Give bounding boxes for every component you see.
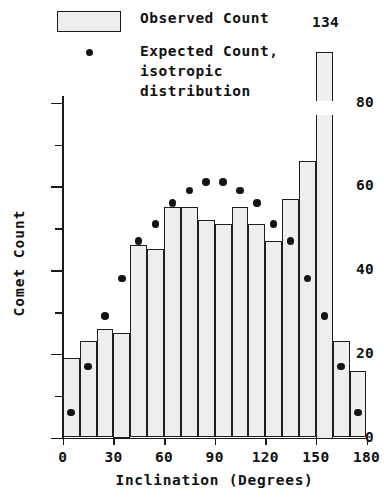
- histogram-bar: [80, 341, 97, 437]
- histogram-bar: [113, 333, 130, 438]
- expected-count-point: [169, 199, 177, 207]
- y-tick-major: [51, 103, 63, 105]
- expected-count-point: [253, 199, 261, 207]
- x-tick: [316, 438, 318, 445]
- histogram-bar: [63, 358, 80, 438]
- x-tick: [63, 438, 65, 445]
- y-tick-major: [51, 270, 63, 272]
- expected-count-point: [101, 312, 109, 320]
- histogram-bar: [130, 245, 147, 438]
- y-tick-minor: [55, 312, 63, 314]
- x-tick: [265, 438, 267, 445]
- histogram-bar: [350, 371, 367, 438]
- y-tick-label: 20: [330, 345, 374, 361]
- peak-value-label: 134: [312, 14, 339, 30]
- expected-count-point: [337, 363, 345, 371]
- histogram-bar: [147, 249, 164, 437]
- x-tick-label: 90: [195, 449, 235, 465]
- y-tick-minor: [55, 145, 63, 147]
- y-tick-label: 60: [330, 177, 374, 193]
- expected-count-point: [321, 312, 329, 320]
- expected-count-point: [202, 178, 210, 186]
- x-tick: [113, 438, 115, 445]
- x-tick-label: 30: [93, 449, 133, 465]
- x-tick-label: 60: [144, 449, 184, 465]
- x-axis-title: Inclination (Degrees): [62, 472, 367, 488]
- histogram-bar: [248, 224, 265, 437]
- y-tick-label: 80: [330, 94, 374, 110]
- expected-count-point: [186, 187, 194, 195]
- histogram-bar: [198, 220, 215, 438]
- x-tick: [164, 438, 166, 445]
- histogram-bar: [97, 329, 114, 438]
- histogram-bar: [265, 241, 282, 438]
- x-tick-label: 180: [347, 449, 384, 465]
- histogram-bar: [215, 224, 232, 437]
- expected-count-point: [354, 409, 362, 417]
- histogram-bar: [299, 161, 316, 437]
- y-tick-major: [51, 186, 63, 188]
- expected-count-point: [270, 220, 278, 228]
- y-tick-minor: [55, 396, 63, 398]
- histogram-bar: [164, 207, 181, 437]
- x-tick: [367, 438, 369, 445]
- y-axis-title: Comet Count: [11, 198, 27, 328]
- expected-count-point: [67, 409, 75, 417]
- y-tick-major: [51, 354, 63, 356]
- expected-count-point: [135, 237, 143, 245]
- x-tick-label: 150: [296, 449, 336, 465]
- expected-count-point: [236, 187, 244, 195]
- histogram-bar: [282, 199, 299, 438]
- expected-count-point: [84, 363, 92, 371]
- expected-count-point: [118, 275, 126, 283]
- histogram-bar: [232, 207, 249, 437]
- histogram-bar: [181, 207, 198, 437]
- x-tick: [215, 438, 217, 445]
- y-tick-label: 40: [330, 261, 374, 277]
- y-tick-minor: [55, 228, 63, 230]
- x-tick-label: 120: [245, 449, 285, 465]
- y-tick-major: [51, 438, 63, 440]
- expected-count-point: [287, 237, 295, 245]
- x-tick-label: 0: [43, 449, 83, 465]
- expected-count-point: [152, 220, 160, 228]
- expected-count-point: [219, 178, 227, 186]
